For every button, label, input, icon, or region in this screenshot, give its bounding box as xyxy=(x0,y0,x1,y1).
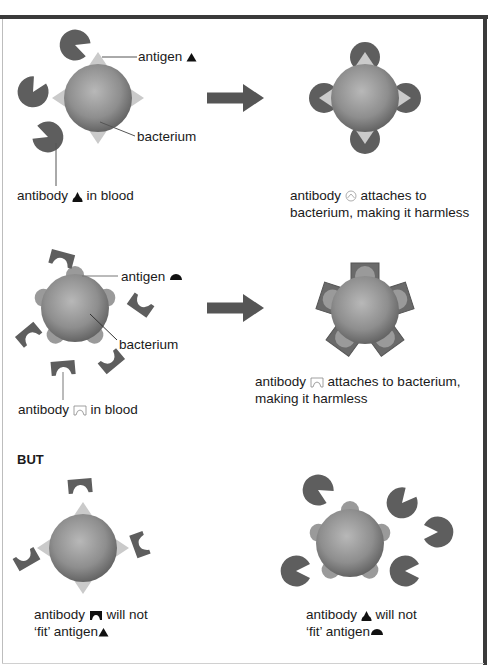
antibody-icon xyxy=(380,482,423,524)
antibody-icon xyxy=(48,249,75,269)
right-arrow-icon xyxy=(207,294,264,322)
pacman-antibody-outline-icon xyxy=(345,190,357,202)
row1-result-caption: antibody attaches to bacterium, making i… xyxy=(290,187,469,221)
bacterium-icon xyxy=(331,64,399,132)
antibody-icon xyxy=(30,118,68,157)
right-arrow-icon xyxy=(207,84,264,112)
antibody-icon xyxy=(129,531,150,558)
pacman-antibody-icon xyxy=(72,191,83,202)
antibody-icon xyxy=(68,478,93,494)
row2-result-caption: antibody attaches to bacterium, making i… xyxy=(255,373,460,407)
antibody-icon xyxy=(390,556,419,587)
bracket-antibody-outline-icon xyxy=(310,377,324,388)
antibody-icon xyxy=(281,556,310,587)
row3-left-caption: antibody will not ‘fit’ antigen xyxy=(34,606,148,640)
bacterium-label: bacterium xyxy=(137,128,196,145)
antigen-label: antigen xyxy=(138,48,197,65)
antibody-label: antibody in blood xyxy=(17,187,134,204)
row3-left-bacterium-group xyxy=(13,478,151,594)
bacterium-icon xyxy=(331,276,399,344)
row2-right-bacterium-group xyxy=(316,263,414,356)
antigen-label: antigen xyxy=(121,268,183,285)
antibody-icon xyxy=(55,25,93,64)
bacterium-icon xyxy=(64,64,132,132)
row3-right-bacterium-group xyxy=(281,469,454,587)
antibody-icon xyxy=(13,547,41,571)
bacterium-label: bacterium xyxy=(119,336,178,353)
row3-right-caption: antibody will not ‘fit’ antigen xyxy=(306,606,417,640)
antibody-icon xyxy=(127,293,155,318)
bracket-antibody-icon xyxy=(89,610,103,621)
bracket-antibody-outline-icon xyxy=(73,405,87,416)
row1-right-bacterium-group xyxy=(309,42,421,154)
antibody-antigen-diagram xyxy=(0,0,488,667)
bacterium-icon xyxy=(41,274,109,342)
bacterium-icon xyxy=(49,514,117,582)
bump-antigen-icon xyxy=(370,628,384,636)
antibody-label: antibody in blood xyxy=(18,401,138,418)
antibody-icon xyxy=(297,469,338,511)
but-heading: BUT xyxy=(17,451,44,468)
antibody-icon xyxy=(424,517,453,548)
row1-left-bacterium-group xyxy=(12,25,144,186)
bacterium-icon xyxy=(316,509,384,577)
antibody-icon xyxy=(15,322,42,348)
triangle-antigen-icon xyxy=(186,52,197,62)
triangle-antigen-icon xyxy=(98,627,109,637)
antibody-icon xyxy=(12,72,54,113)
pacman-antibody-icon xyxy=(361,610,372,621)
bump-antigen-icon xyxy=(169,273,183,281)
